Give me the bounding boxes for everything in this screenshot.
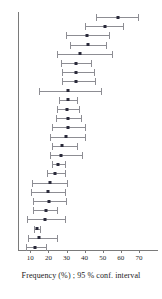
x-axis-tick <box>139 250 140 253</box>
interval-upper-cap <box>109 32 110 39</box>
interval-lower-cap <box>85 23 86 30</box>
interval-lower-cap <box>50 152 51 159</box>
interval-upper-cap <box>66 198 67 205</box>
point-estimate-marker <box>66 108 69 111</box>
interval-row <box>50 152 83 159</box>
forest-plot-figure: 10203040506070 Frequency (%) ; 95 % conf… <box>0 0 162 299</box>
interval-lower-cap <box>52 143 53 150</box>
interval-row <box>57 106 80 113</box>
point-estimate-marker <box>33 246 36 249</box>
interval-lower-cap <box>32 180 33 187</box>
interval-lower-cap <box>27 216 28 223</box>
interval-upper-cap <box>65 216 66 223</box>
interval-lower-cap <box>26 244 27 251</box>
point-estimate-marker <box>57 163 60 166</box>
confidence-interval-line <box>26 247 48 248</box>
interval-lower-cap <box>56 115 57 122</box>
point-estimate-marker <box>53 172 56 175</box>
point-estimate-marker <box>67 126 70 129</box>
confidence-interval-line <box>47 173 67 174</box>
confidence-interval-line <box>39 91 101 92</box>
point-estimate-marker <box>87 43 90 46</box>
interval-row <box>61 60 92 67</box>
interval-lower-cap <box>31 189 32 196</box>
interval-row <box>96 14 139 21</box>
point-estimate-marker <box>79 52 82 55</box>
interval-lower-cap <box>62 78 63 85</box>
interval-lower-cap <box>50 134 51 141</box>
x-axis-tick <box>103 250 104 253</box>
interval-row <box>62 78 96 85</box>
interval-upper-cap <box>85 124 86 131</box>
interval-lower-cap <box>52 161 53 168</box>
interval-row <box>85 23 124 30</box>
point-estimate-marker <box>47 190 50 193</box>
confidence-interval-line <box>50 137 86 138</box>
interval-upper-cap <box>65 170 66 177</box>
interval-row <box>52 161 66 168</box>
interval-lower-cap <box>70 42 71 49</box>
point-estimate-marker <box>43 218 46 221</box>
interval-upper-cap <box>79 106 80 113</box>
point-estimate-marker <box>104 25 107 28</box>
x-axis-tick <box>48 250 49 253</box>
x-axis-label: Frequency (%) ; 95 % conf. interval <box>0 270 162 281</box>
interval-lower-cap <box>62 69 63 76</box>
point-estimate-marker <box>67 117 70 120</box>
interval-row <box>57 51 113 58</box>
interval-row <box>33 198 67 205</box>
interval-upper-cap <box>57 207 58 214</box>
point-estimate-marker <box>38 236 41 239</box>
interval-upper-cap <box>85 134 86 141</box>
interval-row <box>27 216 67 223</box>
point-estimate-marker <box>117 16 120 19</box>
interval-row <box>62 69 95 76</box>
interval-row <box>66 32 110 39</box>
x-axis-tick-label: 50 <box>99 254 106 262</box>
confidence-interval-line <box>50 155 83 156</box>
interval-lower-cap <box>96 14 97 21</box>
interval-row <box>70 42 107 49</box>
x-axis-tick <box>67 250 68 253</box>
x-axis-tick-label: 60 <box>117 254 124 262</box>
interval-lower-cap <box>61 60 62 67</box>
confidence-interval-line <box>27 219 67 220</box>
interval-rows-container <box>18 14 158 248</box>
point-estimate-marker <box>35 227 38 230</box>
interval-upper-cap <box>77 143 78 150</box>
interval-lower-cap <box>28 235 29 242</box>
point-estimate-marker <box>65 135 68 138</box>
point-estimate-marker <box>60 154 63 157</box>
interval-row <box>28 235 59 242</box>
interval-lower-cap <box>33 207 34 214</box>
interval-upper-cap <box>112 51 113 58</box>
point-estimate-marker <box>86 34 89 37</box>
interval-upper-cap <box>95 78 96 85</box>
interval-upper-cap <box>65 189 66 196</box>
confidence-interval-line <box>62 72 95 73</box>
confidence-interval-line <box>57 54 113 55</box>
x-axis-tick <box>121 250 122 253</box>
interval-upper-cap <box>77 97 78 104</box>
interval-row <box>52 143 78 150</box>
interval-row <box>56 115 82 122</box>
interval-row <box>47 170 67 177</box>
interval-upper-cap <box>82 152 83 159</box>
point-estimate-marker <box>48 200 51 203</box>
interval-upper-cap <box>91 60 92 67</box>
confidence-interval-line <box>62 81 96 82</box>
interval-upper-cap <box>101 88 102 95</box>
interval-row <box>50 134 86 141</box>
x-axis-tick <box>85 250 86 253</box>
interval-lower-cap <box>57 106 58 113</box>
point-estimate-marker <box>67 98 70 101</box>
interval-upper-cap <box>138 14 139 21</box>
interval-upper-cap <box>67 180 68 187</box>
x-axis-tick-label: 40 <box>81 254 88 262</box>
interval-row <box>52 124 85 131</box>
interval-row <box>59 97 78 104</box>
interval-upper-cap <box>81 115 82 122</box>
point-estimate-marker <box>67 89 70 92</box>
interval-upper-cap <box>94 69 95 76</box>
x-axis-tick-label: 30 <box>63 254 70 262</box>
